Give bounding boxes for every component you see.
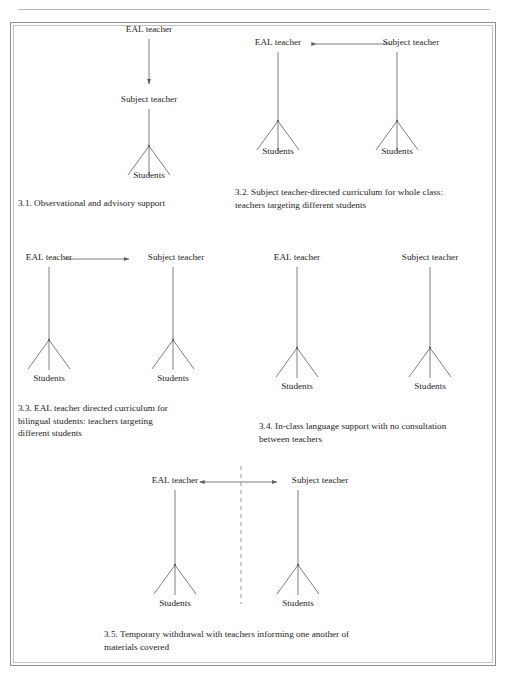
caption-3-1: 3.1. Observational and advisory support	[18, 197, 233, 210]
node-label-3-4-subject-teacher: Subject teacher	[402, 252, 458, 263]
node-label-3-1-eal-teacher: EAL teacher	[126, 24, 172, 35]
figure-frame	[10, 22, 496, 666]
caption-3-3-line3: different students	[18, 428, 82, 438]
node-label-3-2-eal-teacher: EAL teacher	[255, 37, 301, 48]
caption-3-3-line1: 3.3. EAL teacher directed curriculum for	[18, 403, 168, 413]
caption-3-5-line1: 3.5. Temporary withdrawal with teachers …	[104, 629, 349, 639]
caption-3-4-line2: between teachers	[259, 434, 322, 444]
node-label-3-5-students-right: Students	[282, 598, 314, 609]
node-label-3-5-students-left: Students	[159, 598, 191, 609]
node-label-3-3-students-left: Students	[33, 373, 65, 384]
page-header-rule	[18, 9, 490, 10]
node-label-3-1-students: Students	[133, 170, 165, 181]
caption-3-2-line1: 3.2. Subject teacher-directed curriculum…	[235, 187, 443, 197]
node-label-3-2-subject-teacher: Subject teacher	[383, 37, 439, 48]
caption-3-2-line2: teachers targeting different students	[235, 200, 366, 210]
node-label-3-5-subject-teacher: Subject teacher	[292, 475, 348, 486]
node-label-3-3-eal-teacher: EAL teacher	[26, 252, 72, 263]
node-label-3-5-eal-teacher: EAL teacher	[152, 475, 198, 486]
caption-3-5: 3.5. Temporary withdrawal with teachers …	[104, 628, 434, 653]
node-label-3-3-students-right: Students	[157, 373, 189, 384]
caption-3-4-line1: 3.4. In-class language support with no c…	[259, 421, 446, 431]
node-label-3-3-subject-teacher: Subject teacher	[148, 252, 204, 263]
caption-3-3-line2: bilingual students: teachers targeting	[18, 416, 153, 426]
caption-3-2: 3.2. Subject teacher-directed curriculum…	[235, 186, 490, 211]
node-label-3-2-students-right: Students	[381, 146, 413, 157]
node-label-3-2-students-left: Students	[262, 146, 294, 157]
caption-3-3: 3.3. EAL teacher directed curriculum for…	[18, 402, 218, 440]
node-label-3-1-subject-teacher: Subject teacher	[121, 94, 177, 105]
node-label-3-4-eal-teacher: EAL teacher	[274, 252, 320, 263]
caption-3-5-line2: materials covered	[104, 642, 169, 652]
node-label-3-4-students-right: Students	[414, 381, 446, 392]
node-label-3-4-students-left: Students	[281, 381, 313, 392]
caption-3-4: 3.4. In-class language support with no c…	[259, 420, 491, 445]
